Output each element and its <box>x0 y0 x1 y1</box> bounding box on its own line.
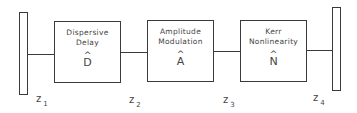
amplitude-modulation-block: Amplitude Modulation ^ A <box>147 20 214 82</box>
wire-mirror-to-dispersive <box>27 54 54 55</box>
position-label-z4: z4 <box>313 93 325 104</box>
position-label-z3: z3 <box>223 95 235 106</box>
block-title-line1: Amplitude <box>148 27 213 37</box>
wire-amplitude-to-kerr <box>213 51 240 52</box>
dispersive-delay-block: Dispersive Delay ^ D <box>54 21 121 83</box>
kerr-nonlinearity-block: Kerr Nonlinearity ^ N <box>240 20 307 82</box>
block-title-line2: Modulation <box>148 37 213 47</box>
left-mirror <box>19 12 28 95</box>
block-title: Kerr Nonlinearity <box>241 27 306 47</box>
cavity-diagram: Dispersive Delay ^ D Amplitude Modulatio… <box>0 0 357 113</box>
block-title-line2: Delay <box>55 38 120 48</box>
z-subscript: 2 <box>136 101 140 109</box>
block-title-line2: Nonlinearity <box>241 37 306 47</box>
block-title-line1: Kerr <box>241 27 306 37</box>
z-subscript: 1 <box>43 100 47 108</box>
z-subscript: 4 <box>320 99 324 107</box>
wire-dispersive-to-amplitude <box>120 52 147 53</box>
wire-kerr-to-mirror <box>306 50 333 51</box>
position-label-z1: z1 <box>36 94 48 105</box>
block-title: Amplitude Modulation <box>148 27 213 47</box>
operator-symbol-a: A <box>148 56 213 68</box>
block-title-line1: Dispersive <box>55 28 120 38</box>
z-subscript: 3 <box>230 101 234 109</box>
z-var: z <box>129 94 134 105</box>
z-var: z <box>223 94 228 105</box>
operator-symbol-d: D <box>55 57 120 69</box>
z-var: z <box>36 93 41 104</box>
right-mirror <box>332 7 341 91</box>
block-title: Dispersive Delay <box>55 28 120 48</box>
operator-symbol-n: N <box>241 56 306 68</box>
position-label-z2: z2 <box>129 95 141 106</box>
z-var: z <box>313 92 318 103</box>
